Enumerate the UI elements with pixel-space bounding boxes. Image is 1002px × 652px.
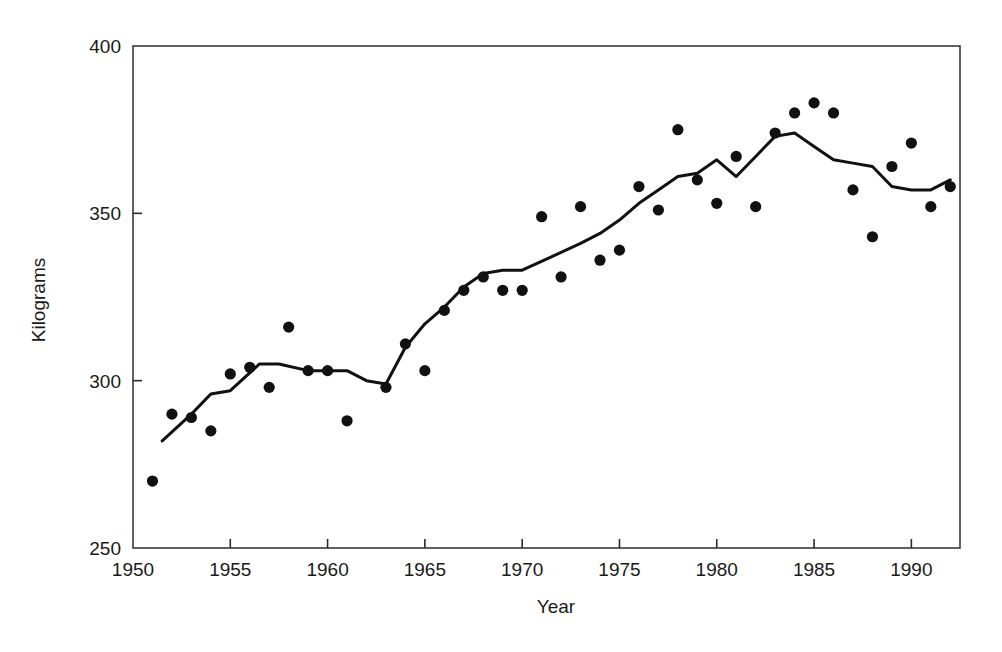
data-point	[303, 365, 314, 376]
data-point	[731, 151, 742, 162]
x-axis-tick-labels: 195019551960196519701975198019851990	[112, 559, 933, 580]
data-point	[808, 97, 819, 108]
x-tick-label: 1985	[793, 559, 835, 580]
data-point	[283, 322, 294, 333]
data-point	[925, 201, 936, 212]
data-point	[711, 198, 722, 209]
data-point	[614, 245, 625, 256]
data-point	[633, 181, 644, 192]
x-tick-label: 1955	[209, 559, 251, 580]
data-point	[692, 174, 703, 185]
data-point	[380, 382, 391, 393]
data-point	[789, 107, 800, 118]
data-point	[594, 255, 605, 266]
data-point	[322, 365, 333, 376]
x-tick-label: 1980	[696, 559, 738, 580]
data-point	[906, 137, 917, 148]
data-point	[166, 409, 177, 420]
y-tick-label: 350	[89, 203, 121, 224]
data-point	[225, 368, 236, 379]
y-tick-label: 300	[89, 371, 121, 392]
data-point	[517, 285, 528, 296]
data-point	[575, 201, 586, 212]
data-point	[147, 475, 158, 486]
data-point	[536, 211, 547, 222]
data-point	[419, 365, 430, 376]
x-axis-title: Year	[537, 596, 576, 617]
x-tick-label: 1965	[404, 559, 446, 580]
data-point	[672, 124, 683, 135]
data-point	[555, 271, 566, 282]
scatter-chart: 195019551960196519701975198019851990 250…	[0, 0, 1002, 652]
data-point	[439, 305, 450, 316]
data-point	[458, 285, 469, 296]
chart-figure: 195019551960196519701975198019851990 250…	[0, 0, 1002, 652]
data-point	[750, 201, 761, 212]
data-point	[205, 425, 216, 436]
data-point	[186, 412, 197, 423]
x-tick-label: 1990	[890, 559, 932, 580]
y-axis-title: Kilograms	[28, 258, 49, 342]
data-point	[653, 204, 664, 215]
data-point	[244, 362, 255, 373]
chart-background	[0, 0, 1002, 652]
data-point	[264, 382, 275, 393]
data-point	[847, 184, 858, 195]
y-tick-label: 400	[89, 36, 121, 57]
data-point	[400, 338, 411, 349]
data-point	[828, 107, 839, 118]
x-tick-label: 1950	[112, 559, 154, 580]
data-point	[867, 231, 878, 242]
data-point	[770, 127, 781, 138]
data-point	[478, 271, 489, 282]
data-point	[341, 415, 352, 426]
x-tick-label: 1975	[598, 559, 640, 580]
x-tick-label: 1960	[306, 559, 348, 580]
y-tick-label: 250	[89, 538, 121, 559]
data-point	[886, 161, 897, 172]
data-point	[945, 181, 956, 192]
data-point	[497, 285, 508, 296]
x-tick-label: 1970	[501, 559, 543, 580]
